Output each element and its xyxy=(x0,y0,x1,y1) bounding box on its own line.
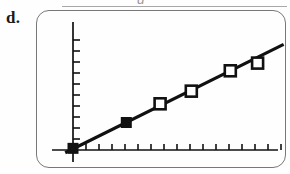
data-point-filled-square xyxy=(121,117,132,128)
data-point-open-square xyxy=(225,65,236,76)
data-point-open-square xyxy=(186,86,197,97)
data-point-filled-square xyxy=(68,143,79,154)
plot-area xyxy=(36,10,286,168)
data-point-open-square xyxy=(252,58,263,69)
scan-artifact-glyph: g xyxy=(137,0,151,4)
x-axis-ticks xyxy=(73,144,281,150)
data-point-markers xyxy=(68,58,264,154)
scatter-plot-svg xyxy=(36,10,286,168)
panel-label: d. xyxy=(6,8,20,28)
scan-artifact-rule xyxy=(62,6,287,7)
data-point-open-square xyxy=(155,98,166,109)
figure-panel-screenshot: g d. xyxy=(0,0,290,174)
x-axis xyxy=(52,144,281,150)
y-axis xyxy=(73,22,80,162)
y-axis-ticks xyxy=(73,40,80,139)
